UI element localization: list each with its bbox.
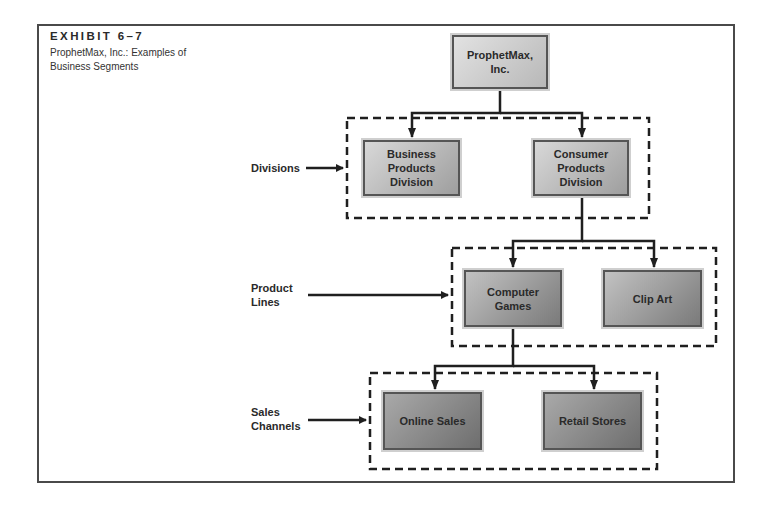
label-divisions: Divisions xyxy=(251,161,300,175)
node-business-products-division: Business Products Division xyxy=(363,140,460,196)
label-sales-channels: Sales Channels xyxy=(251,405,301,433)
node-computer-games: Computer Games xyxy=(464,270,562,327)
node-prophetmax: ProphetMax, Inc. xyxy=(452,35,548,89)
node-clip-art: Clip Art xyxy=(603,270,702,327)
label-product-lines: Product Lines xyxy=(251,281,301,309)
node-online-sales: Online Sales xyxy=(383,392,482,450)
node-retail-stores: Retail Stores xyxy=(543,392,642,450)
node-consumer-products-division: Consumer Products Division xyxy=(533,140,629,196)
